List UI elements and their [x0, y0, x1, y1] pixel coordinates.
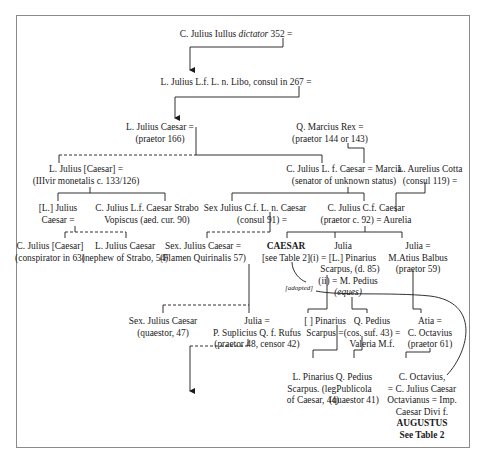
node-augustus-name: AUGUSTUS	[387, 418, 457, 430]
node-name: [L.] Julius	[39, 203, 78, 215]
adopted-text: [adopted]	[285, 283, 313, 295]
table-reference: See Table 2	[387, 430, 457, 442]
node-title: Caesar Divi f.	[387, 407, 457, 419]
node-julia-balbus: Julia = M.Atius Balbus (praetor 59)	[388, 241, 447, 276]
node-sex-julius-quaestor-47: Sex. Julius Caesar (quaestor, 47)	[129, 316, 197, 339]
node-name: Sex Julius C.f. L. n. Caesar	[204, 203, 306, 215]
node-q-pedius: Q. Pedius (cos. suf. 43) = Valeria M.f.	[344, 316, 401, 351]
node-year: 352 =	[271, 29, 293, 39]
node-julia-rufus: Julia = P. Suplicius Q. f. Rufus (praeto…	[213, 316, 301, 351]
node-l-julius-nephew: L. Julius Caesar (nephew of Strabo, 54)	[82, 241, 168, 264]
node-c-julius-senator: C. Julius L. f. Caesar = Marcia (senator…	[286, 164, 401, 187]
node-c-julius-iullus: C. Julius Iullus dictator 352 =	[180, 29, 293, 41]
node-julia-pinarius: Julia (i) = [L.] Pinarius Scarpus, (d. 8…	[306, 241, 379, 299]
node-name: L. Julius [Caesar] =	[33, 164, 140, 176]
node-spouse: C. Octavius	[408, 328, 453, 340]
node-office: (senator of unknown status)	[286, 176, 401, 188]
node-office: (IIIvir monetalis c. 133/126)	[33, 176, 140, 188]
node-pinarius-scarpus: [ ] Pinarius Scarpus =	[304, 316, 346, 339]
node-name: C. Julius L.f. Caesar Strabo	[95, 203, 198, 215]
node-q-marcius-rex: Q. Marcius Rex = (praetor 144 or 143)	[292, 122, 368, 145]
node-office: (cos. suf. 43) =	[344, 328, 401, 340]
node-office: (praetor 61)	[408, 339, 453, 351]
node-sex-julius-flamen: Sex. Julius Caesar = (Flamen Quirinalis …	[160, 241, 246, 264]
node-name-cont: Publicola	[329, 384, 379, 396]
node-c-julius-conspirator: C. Julius [Caesar] (conspirator in 63)	[15, 241, 85, 264]
node-title: dictator	[239, 29, 269, 39]
node-sex-julius-consul-91: Sex Julius C.f. L. n. Caesar (consul 91)…	[204, 203, 306, 226]
node-caesar: CAESAR [see Table 2]	[262, 241, 310, 264]
node-name: C. Julius Iullus	[180, 29, 237, 39]
node-l-aurelius-cotta: L. Aurelius Cotta (consul 119) =	[398, 164, 463, 187]
node-office: (praetor 166)	[126, 134, 194, 146]
table-reference: [see Table 2]	[262, 253, 310, 265]
node-office: (praetor 144 or 143)	[292, 134, 368, 146]
node-adopted-name: = C. Julius Caesar	[387, 384, 457, 396]
node-office: (Flamen Quirinalis 57)	[160, 253, 246, 265]
node-name: L. Julius Caesar =	[126, 122, 194, 134]
node-name: C. Julius [Caesar]	[15, 241, 85, 253]
node-name: L. Julius L.f. L. n. Libo, consul in 267…	[161, 77, 312, 89]
node-office: (praetor 59)	[388, 264, 447, 276]
node-l-julius-caesar: [L.] Julius Caesar =	[39, 203, 78, 226]
node-name: Julia =	[388, 241, 447, 253]
node-office: Vopiscus (aed. cur. 90)	[95, 215, 198, 227]
node-name: [ ] Pinarius	[304, 316, 346, 328]
node-name: Sex. Julius Caesar	[129, 316, 197, 328]
node-name: Q. Marcius Rex =	[292, 122, 368, 134]
node-c-julius-praetor-92: C. Julius C.f. Caesar (praetor c. 92) = …	[321, 203, 412, 226]
node-office: (quaestor 41)	[329, 395, 379, 407]
node-name: CAESAR	[262, 241, 310, 253]
node-name: C. Julius L. f. Caesar = Marcia	[286, 164, 401, 176]
node-l-julius-libo: L. Julius L.f. L. n. Libo, consul in 267…	[161, 77, 312, 89]
node-spouse: Valeria M.f.	[344, 339, 401, 351]
node-office: (consul 91) =	[204, 215, 306, 227]
node-name-cont: Scarpus =	[304, 328, 346, 340]
node-name-cont: Caesar =	[39, 215, 78, 227]
node-office: (conspirator in 63)	[15, 253, 85, 265]
node-name: Julia	[306, 241, 379, 253]
node-office: (consul 119) =	[398, 176, 463, 188]
node-name: Atia =	[408, 316, 453, 328]
node-spouse-2: (ii) = M. Pedius	[306, 276, 379, 288]
node-spouse: M.Atius Balbus	[388, 253, 447, 265]
node-spouse-1-cont: Scarpus, (d. 85)	[306, 264, 379, 276]
node-office: (praetor 48, censor 42)	[213, 339, 301, 351]
node-spouse-1: (i) = [L.] Pinarius	[306, 253, 379, 265]
node-office: (praetor c. 92) = Aurelia	[321, 215, 412, 227]
node-l-julius-caesar-166: L. Julius Caesar = (praetor 166)	[126, 122, 194, 145]
node-name: Q. Pedius	[329, 372, 379, 384]
node-name: L. Julius Caesar	[82, 241, 168, 253]
node-augustus: C. Octavius, = C. Julius Caesar Octavian…	[387, 372, 457, 442]
node-adopted-name-cont: Octavianus = Imp.	[387, 395, 457, 407]
node-name: L. Aurelius Cotta	[398, 164, 463, 176]
node-name: C. Octavius,	[387, 372, 457, 384]
node-name: Sex. Julius Caesar =	[160, 241, 246, 253]
adopted-label: [adopted]	[285, 283, 313, 295]
node-spouse-2-rank: (eques)	[306, 287, 379, 299]
node-office: (nephew of Strabo, 54)	[82, 253, 168, 265]
node-spouse: P. Suplicius Q. f. Rufus	[213, 328, 301, 340]
node-strabo: C. Julius L.f. Caesar Strabo Vopiscus (a…	[95, 203, 198, 226]
node-atia: Atia = C. Octavius (praetor 61)	[408, 316, 453, 351]
node-name: Q. Pedius	[344, 316, 401, 328]
node-name: C. Julius C.f. Caesar	[321, 203, 412, 215]
node-l-julius-caesar-monetalis: L. Julius [Caesar] = (IIIvir monetalis c…	[33, 164, 140, 187]
node-office: (quaestor, 47)	[129, 328, 197, 340]
node-q-pedius-publicola: Q. Pedius Publicola (quaestor 41)	[329, 372, 379, 407]
node-name: Julia =	[213, 316, 301, 328]
